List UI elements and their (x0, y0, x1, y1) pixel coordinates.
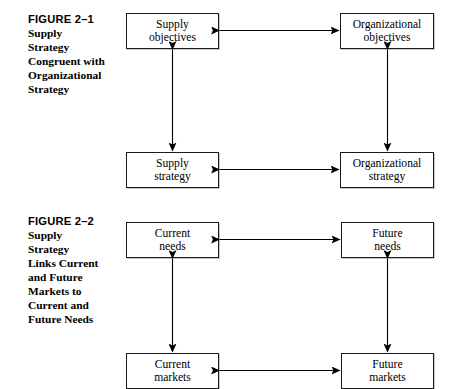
node-label-line: Current (155, 358, 190, 372)
caption-line: Future Needs (28, 312, 124, 326)
node-organizational-strategy: Organizational strategy (340, 152, 434, 188)
node-label-line: needs (159, 240, 185, 254)
node-label-line: Supply (156, 157, 189, 171)
node-label-line: Future (372, 358, 402, 372)
caption-line: Markets to (28, 284, 124, 298)
caption-line: Current and (28, 298, 124, 312)
caption-line: Organizational (28, 68, 124, 82)
node-label-line: strategy (369, 170, 406, 184)
caption-line: Links Current (28, 256, 124, 270)
node-future-needs: Future needs (341, 222, 434, 258)
figure-2-1-caption-title: FIGURE 2–1 (28, 12, 124, 26)
node-label-line: Current (155, 227, 190, 241)
node-label-line: needs (374, 240, 400, 254)
node-label-line: objectives (149, 31, 196, 45)
node-label-line: Organizational (353, 157, 422, 171)
node-label-line: objectives (363, 31, 410, 45)
node-label-line: markets (154, 371, 191, 385)
node-label-line: Future (372, 227, 402, 241)
node-current-markets: Current markets (126, 353, 219, 389)
caption-line: Supply (28, 26, 124, 40)
caption-line: Congruent with (28, 54, 124, 68)
node-label-line: markets (369, 371, 406, 385)
caption-line: and Future (28, 270, 124, 284)
figure-2-2-caption-body: Supply Strategy Links Current and Future… (28, 228, 124, 326)
node-label-line: strategy (154, 170, 191, 184)
figure-2-2-caption: FIGURE 2–2 Supply Strategy Links Current… (28, 214, 124, 326)
caption-line: Supply (28, 228, 124, 242)
node-supply-strategy: Supply strategy (126, 152, 219, 188)
node-label-line: Organizational (353, 18, 422, 32)
node-supply-objectives: Supply objectives (126, 13, 219, 49)
node-future-markets: Future markets (341, 353, 434, 389)
node-label-line: Supply (156, 18, 189, 32)
caption-line: Strategy (28, 82, 124, 96)
caption-line: Strategy (28, 242, 124, 256)
figure-2-1-caption: FIGURE 2–1 Supply Strategy Congruent wit… (28, 12, 124, 96)
node-current-needs: Current needs (126, 222, 219, 258)
node-organizational-objectives: Organizational objectives (340, 13, 434, 49)
figure-2-1-caption-body: Supply Strategy Congruent with Organizat… (28, 26, 124, 96)
caption-line: Strategy (28, 40, 124, 54)
figure-2-2-caption-title: FIGURE 2–2 (28, 214, 124, 228)
